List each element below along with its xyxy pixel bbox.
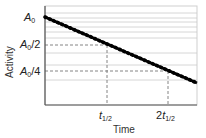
plot-frame (45, 6, 197, 105)
y-tick-a0: A0 (24, 12, 35, 24)
x-tick-two-half-lives: 2t1/2 (156, 110, 175, 122)
x-axis-title: Time (113, 124, 135, 135)
y-axis-title: Activity (4, 46, 15, 78)
y-tick-a0-half: A0/2 (20, 39, 40, 51)
x-tick-half-life: t1/2 (99, 110, 112, 122)
y-tick-a0-quarter: A0/4 (20, 66, 40, 78)
